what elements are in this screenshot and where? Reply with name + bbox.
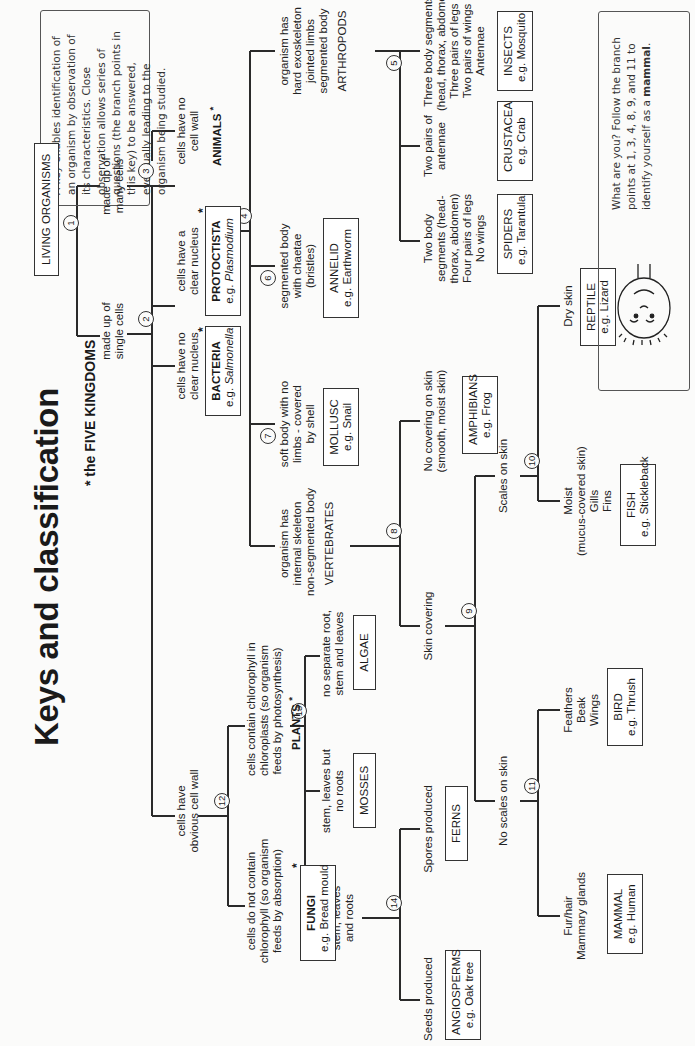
criterion-line: Feathers — [562, 679, 575, 741]
criterion-no-roots: stem, leaves but no roots — [320, 746, 346, 836]
group-name: CRUSTACEA — [502, 102, 514, 172]
branch-point-10: 10 — [524, 453, 540, 469]
criterion-line: Mammary glands — [575, 866, 588, 966]
criterion-line: (bristles) — [304, 221, 317, 311]
group-box-bacteria: BACTERIA e.g. Salmonella — [205, 326, 241, 416]
criterion-line: clear nucleus — [188, 221, 201, 301]
group-name: BIRD — [612, 693, 624, 720]
group-name: ALGAE — [358, 633, 370, 671]
group-box-mollusc: MOLLUSC e.g. Snail — [323, 388, 359, 466]
criterion-three-body-segments: Three body segments (head, thorax, abdom… — [422, 0, 487, 111]
footer-note-suffix: . — [640, 43, 652, 46]
criterion-line: organism has — [278, 491, 291, 596]
criterion-chlorophyll: cells contain chlorophyll in chloroplast… — [245, 646, 284, 776]
criterion-no-covering: No covering on skin (smooth, moist skin) — [422, 361, 448, 481]
criterion-line: ARTHROPODS — [336, 6, 349, 96]
group-example: e.g. Bread mould — [318, 864, 330, 952]
branch-point-3: 3 — [138, 163, 154, 179]
criterion-line: cells contain chlorophyll in — [245, 646, 258, 776]
criterion-line: feeds by photosynthesis) — [271, 646, 284, 776]
criterion-line: cells have — [175, 766, 188, 856]
criterion-moist: Moist (mucus-covered skin) Gills Fins — [562, 441, 614, 561]
criterion-line: Moist — [562, 441, 575, 561]
group-example: e.g. Human — [625, 884, 637, 943]
group-example: e.g. Crab — [515, 117, 527, 164]
criterion-line: many cells — [113, 151, 126, 221]
group-box-insects: INSECTS e.g. Mosquito — [497, 11, 533, 91]
branch-point-14: 14 — [386, 895, 402, 911]
criterion-line: stem and leaves — [333, 606, 346, 701]
branch-point-7: 7 — [260, 428, 276, 444]
criterion-line: Three body segments — [422, 0, 435, 111]
criterion-line: cells have a — [175, 221, 188, 301]
criterion-line: segmented body — [278, 221, 291, 311]
branch-point-5: 5 — [386, 55, 402, 71]
criterion-soft-body: soft body with no limbs - covered by she… — [278, 379, 317, 469]
branch-point-11: 11 — [524, 778, 540, 794]
branch-point-2: 2 — [138, 311, 154, 327]
criterion-line: No covering on skin — [422, 361, 435, 481]
group-name: BACTERIA — [210, 341, 222, 400]
group-name: AMPHIBIANS — [467, 374, 479, 445]
group-name: PROTOCTISTA — [210, 220, 222, 301]
group-name: FUNGI — [305, 895, 317, 931]
criterion-line: cells have no — [175, 326, 188, 406]
criterion-line: (mucus-covered skin) — [575, 441, 588, 561]
group-name: ANNELID — [328, 243, 340, 293]
criterion-clear-nucleus-text: cells have a clear nucleus — [175, 221, 201, 301]
group-example: e.g. Frog — [480, 392, 492, 438]
criterion-dry-skin: Dry skin — [562, 276, 575, 336]
branch-point-6: 6 — [260, 270, 276, 286]
group-example: e.g. Thrush — [625, 678, 637, 736]
criterion-line: clear nucleus — [188, 326, 201, 406]
criterion-line: obvious cell wall — [188, 766, 201, 856]
kingdom-star-bacteria: * — [196, 327, 210, 332]
criterion-line: cell wall — [188, 96, 201, 166]
group-example: e.g. Snail — [341, 403, 353, 451]
criterion-line: Fur/hair — [562, 866, 575, 966]
group-name: REPTILE — [585, 283, 597, 331]
criterion-line: made up of — [100, 296, 113, 366]
group-name: INSECTS — [502, 26, 514, 76]
criterion-line: jointed limbs — [304, 6, 317, 96]
criterion-line: VERTEBRATES — [323, 491, 336, 596]
group-name: FERNS — [450, 804, 462, 843]
criterion-line: and roots — [343, 883, 356, 953]
group-box-angiosperms: ANGIOSPERMS e.g. Oak tree — [445, 950, 481, 1040]
criterion-line: No wings — [474, 191, 487, 286]
group-box-crustacea: CRUSTACEA e.g. Crab — [497, 101, 533, 181]
criterion-exoskeleton: organism has hard exoskeleton jointed li… — [278, 6, 349, 96]
criterion-seeds: Seeds produced — [422, 954, 435, 1044]
criterion-line: Two pairs of wings — [461, 0, 474, 111]
group-name: MAMMAL — [612, 889, 624, 939]
criterion-line: (smooth, moist skin) — [435, 361, 448, 481]
group-box-algae: ALGAE — [353, 615, 376, 690]
branch-point-12: 12 — [214, 793, 230, 809]
group-name: ANGIOSPERMS — [450, 949, 462, 1035]
group-example: e.g. Stickleback — [638, 456, 650, 537]
criterion-scales: Scales on skin — [497, 431, 510, 521]
criterion-no-separate-root: no separate root, stem and leaves — [320, 606, 346, 701]
classification-key-page: Keys and classification * the FIVE KINGD… — [0, 0, 695, 1046]
kingdom-star: * — [207, 107, 218, 111]
criterion-spores: Spores produced — [422, 784, 435, 874]
group-example: e.g. Tarantula — [515, 196, 527, 265]
group-box-annelid: ANNELID e.g. Earthworm — [323, 218, 359, 318]
criterion-internal-skeleton: organism has internal skeleton non-segme… — [278, 491, 336, 596]
group-example: e.g. Mosquito — [515, 13, 527, 82]
group-box-fungi: FUNGI e.g. Bread mould — [300, 865, 336, 961]
group-box-bird: BIRD e.g. Thrush — [607, 668, 643, 746]
criterion-two-pairs-antennae: Two pairs of antennae — [422, 111, 448, 181]
group-box-protoctista: PROTOCTISTA e.g. Plasmodium — [205, 206, 241, 316]
criterion-chaetae: segmented body with chaetae (bristles) — [278, 221, 317, 311]
group-box-fish: FISH e.g. Stickleback — [620, 464, 656, 546]
group-example: Plasmodium — [223, 218, 235, 281]
kingdom-star-protoctista: * — [196, 208, 210, 213]
criterion-two-body-segments: Two body segments (head- thorax, abdomen… — [422, 191, 487, 286]
criterion-line: with chaetae — [291, 221, 304, 311]
criterion-line: soft body with no — [278, 379, 291, 469]
group-example-prefix: e.g. — [223, 281, 235, 303]
branch-point-1: 1 — [63, 215, 79, 231]
criterion-line: Antennae — [474, 0, 487, 111]
criterion-feathers: Feathers Beak Wings — [562, 679, 601, 741]
